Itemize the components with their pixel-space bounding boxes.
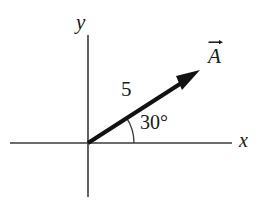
vector-diagram: y x 5 30° A [0, 0, 268, 207]
y-axis-label: y [76, 12, 85, 33]
angle-arc [127, 118, 134, 143]
diagram-canvas [0, 0, 268, 207]
vector-name-label: A [208, 39, 221, 67]
vector-arrowhead [176, 70, 200, 90]
vector-magnitude-label: 5 [121, 79, 132, 100]
vector-name-glyph: A [208, 46, 221, 67]
angle-label: 30° [140, 112, 168, 132]
x-axis-label: x [239, 130, 248, 150]
overarrow-icon [208, 39, 223, 46]
vector-shaft [88, 82, 183, 143]
vector-name-accent-wrap: A [208, 39, 221, 67]
